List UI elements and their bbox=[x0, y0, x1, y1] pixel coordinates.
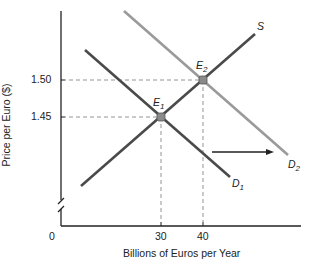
d1-label: D1 bbox=[232, 177, 244, 192]
equilibrium-e2-marker bbox=[199, 76, 207, 84]
d2-label: D2 bbox=[288, 158, 300, 173]
d2-label-sub: 2 bbox=[296, 164, 300, 173]
e2-label: E2 bbox=[196, 59, 207, 74]
x-tick-label-0: 0 bbox=[49, 230, 55, 242]
y-tick-label-150: 1.50 bbox=[31, 73, 51, 85]
d1-label-sub: 1 bbox=[240, 183, 244, 192]
y-tick-label-145: 1.45 bbox=[31, 110, 51, 122]
d2-label-letter: D bbox=[288, 158, 296, 170]
equilibrium-e1-marker bbox=[157, 113, 165, 121]
x-tick-label-30: 30 bbox=[155, 230, 167, 242]
e1-label: E1 bbox=[153, 96, 164, 111]
e1-label-sub: 1 bbox=[160, 102, 164, 111]
x-tick-label-40: 40 bbox=[197, 230, 209, 242]
e1-label-letter: E bbox=[153, 96, 160, 108]
d1-label-letter: D bbox=[232, 177, 240, 189]
shift-arrow-head-icon bbox=[266, 149, 274, 155]
e2-label-letter: E bbox=[196, 59, 203, 71]
x-axis-label: Billions of Euros per Year bbox=[123, 247, 240, 259]
supply-label: S bbox=[257, 20, 264, 32]
supply-curve bbox=[81, 34, 255, 186]
e2-label-sub: 2 bbox=[203, 65, 207, 74]
y-axis-label: Price per Euro ($) bbox=[0, 84, 12, 167]
